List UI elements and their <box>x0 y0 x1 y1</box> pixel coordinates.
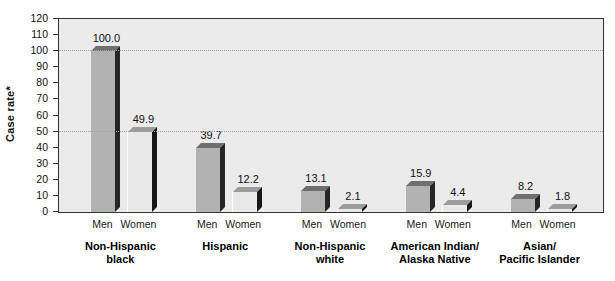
y-tick-label: 20 <box>36 173 48 185</box>
bar-pair: 39.712.2 <box>195 148 257 212</box>
bar-men: 13.1 <box>300 191 325 212</box>
bar-groups: 100.049.939.712.213.12.115.94.48.21.8 <box>69 19 593 212</box>
y-tick-label: 40 <box>36 141 48 153</box>
sex-label-group: MenWomen <box>173 218 278 232</box>
y-tick-label: 50 <box>36 125 48 137</box>
sex-label-row: MenWomenMenWomenMenWomenMenWomenMenWomen <box>68 218 592 232</box>
bar-group: 100.049.9 <box>69 19 174 212</box>
bar-women: 1.8 <box>547 209 572 212</box>
bar-men: 8.2 <box>510 199 535 212</box>
value-label: 2.1 <box>345 190 360 202</box>
y-tick-label: 80 <box>36 76 48 88</box>
y-tick-label: 10 <box>36 189 48 201</box>
bar-women: 12.2 <box>232 192 257 212</box>
y-axis: 0102030405060708090100110120 <box>0 18 58 211</box>
sex-label-women: Women <box>435 218 471 230</box>
category-label-line: white <box>278 253 383 266</box>
sex-label-group: MenWomen <box>278 218 383 232</box>
bar-group: 8.21.8 <box>488 19 593 212</box>
category-label-line: Alaska Native <box>382 253 487 266</box>
gridline-100 <box>59 50 603 51</box>
category-label: Non-Hispanicwhite <box>278 240 383 265</box>
category-label: American Indian/Alaska Native <box>382 240 487 265</box>
y-tick-label: 70 <box>36 92 48 104</box>
sex-label-men: Men <box>302 218 322 230</box>
category-label-line: black <box>68 253 173 266</box>
bar-women: 49.9 <box>127 132 152 212</box>
bar-side-face <box>257 187 262 212</box>
y-tick-label: 0 <box>42 205 48 217</box>
bar-men: 39.7 <box>195 148 220 212</box>
bar-group: 39.712.2 <box>174 19 279 212</box>
y-tick-label: 120 <box>30 12 48 24</box>
value-label: 13.1 <box>305 172 326 184</box>
bar-side-face <box>325 186 330 212</box>
y-tick-label: 30 <box>36 157 48 169</box>
category-label-line: American Indian/ <box>382 240 487 253</box>
sex-label-group: MenWomen <box>68 218 173 232</box>
category-label: Hispanic <box>173 240 278 253</box>
case-rate-bar-chart: Case rate* 0102030405060708090100110120 … <box>0 0 615 281</box>
value-label: 8.2 <box>518 180 533 192</box>
bar-pair: 15.94.4 <box>405 186 467 212</box>
sex-label-men: Men <box>197 218 217 230</box>
y-tick-label: 100 <box>30 44 48 56</box>
value-label: 4.4 <box>450 186 465 198</box>
bar-pair: 13.12.1 <box>300 191 362 212</box>
category-label: Non-Hispanicblack <box>68 240 173 265</box>
bar-women: 2.1 <box>337 209 362 212</box>
bar-men: 15.9 <box>405 186 430 212</box>
sex-label-group: MenWomen <box>382 218 487 232</box>
gridline-50 <box>59 131 603 132</box>
value-label: 15.9 <box>410 167 431 179</box>
value-label: 49.9 <box>133 113 154 125</box>
category-label: Asian/Pacific Islander <box>487 240 592 265</box>
category-label-line: Hispanic <box>173 240 278 253</box>
sex-label-men: Men <box>92 218 112 230</box>
value-label: 100.0 <box>93 32 121 44</box>
sex-label-women: Women <box>330 218 366 230</box>
y-tick-label: 90 <box>36 60 48 72</box>
bar-side-face <box>430 181 435 212</box>
bar-pair: 8.21.8 <box>510 199 572 212</box>
sex-label-women: Women <box>225 218 261 230</box>
bar-side-face <box>115 46 120 212</box>
plot-area: 100.049.939.712.213.12.115.94.48.21.8 <box>58 18 604 213</box>
bar-women: 4.4 <box>442 205 467 212</box>
category-label-line: Non-Hispanic <box>68 240 173 253</box>
sex-label-women: Women <box>540 218 576 230</box>
sex-label-women: Women <box>120 218 156 230</box>
sex-label-group: MenWomen <box>487 218 592 232</box>
y-tick-label: 60 <box>36 109 48 121</box>
category-label-line: Asian/ <box>487 240 592 253</box>
bar-group: 13.12.1 <box>279 19 384 212</box>
value-label: 1.8 <box>555 190 570 202</box>
category-label-line: Pacific Islander <box>487 253 592 266</box>
value-label: 12.2 <box>237 173 258 185</box>
category-label-line: Non-Hispanic <box>278 240 383 253</box>
bar-group: 15.94.4 <box>383 19 488 212</box>
sex-label-men: Men <box>407 218 427 230</box>
bar-side-face <box>152 127 157 212</box>
sex-label-men: Men <box>511 218 531 230</box>
bar-side-face <box>220 143 225 212</box>
y-tick-label: 110 <box>31 28 48 40</box>
